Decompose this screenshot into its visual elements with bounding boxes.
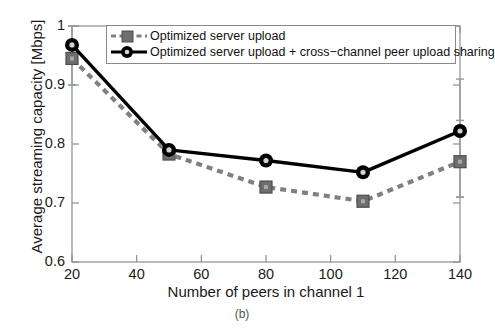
x-tick-label: 40	[117, 266, 157, 282]
legend-marker-circle-solid	[111, 44, 147, 60]
legend-item-optimized-plus-cross-channel: Optimized server upload + cross−channel …	[111, 44, 452, 60]
y-tick-label: 0.8	[27, 135, 65, 151]
legend-label-0: Optimized server upload	[150, 29, 285, 43]
chart-legend: Optimized server upload Optimized server…	[106, 25, 456, 64]
legend-marker-square-dashed	[111, 28, 147, 44]
x-tick-label: 20	[52, 266, 92, 282]
legend-label-1: Optimized server upload + cross−channel …	[150, 45, 495, 59]
x-tick-label: 140	[440, 266, 480, 282]
figure-caption: (b)	[0, 307, 484, 321]
x-tick-label: 60	[181, 266, 221, 282]
x-tick-label: 120	[375, 266, 415, 282]
y-tick-label: 1	[27, 17, 65, 33]
x-tick-label: 80	[246, 266, 286, 282]
x-axis-label: Number of peers in channel 1	[72, 283, 460, 300]
y-tick-label: 0.9	[27, 76, 65, 92]
y-tick-label: 0.7	[27, 194, 65, 210]
legend-item-optimized-server-upload: Optimized server upload	[111, 28, 452, 44]
x-tick-label: 100	[311, 266, 351, 282]
